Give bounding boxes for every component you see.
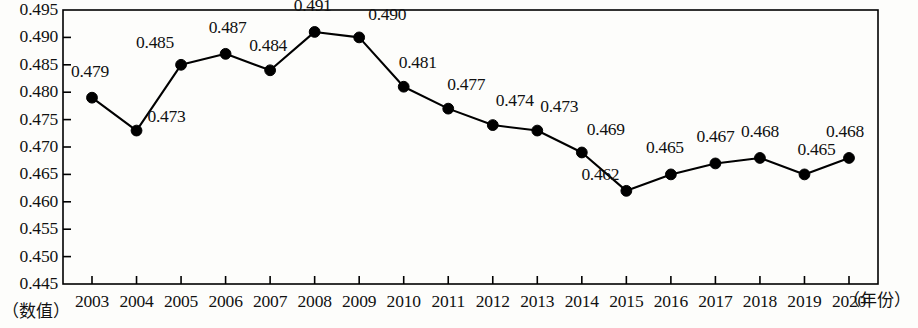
data-point-label: 0.465 <box>646 140 684 158</box>
data-point-label: 0.468 <box>741 123 779 141</box>
data-point-label: 0.491 <box>294 0 332 15</box>
x-axis-tick-label: 2018 <box>743 293 777 311</box>
x-axis-tick-label: 2015 <box>609 293 643 311</box>
data-point-label: 0.462 <box>581 166 619 184</box>
data-point-label: 0.481 <box>399 54 437 72</box>
data-point-label: 0.487 <box>209 19 247 37</box>
x-axis-tick-label: 2007 <box>253 293 287 311</box>
x-axis-tick-label: 2004 <box>119 293 153 311</box>
x-axis-tick-label: 2009 <box>342 293 376 311</box>
x-axis-unit-label: （年份） <box>843 292 911 309</box>
data-point-label: 0.468 <box>826 123 864 141</box>
data-point-label: 0.485 <box>136 34 174 52</box>
data-point-label: 0.477 <box>447 76 485 94</box>
x-axis-tick-label: 2011 <box>431 293 465 311</box>
data-point-label: 0.473 <box>148 108 186 126</box>
x-axis-tick-label: 2006 <box>208 293 242 311</box>
x-axis-tick-label: 2008 <box>298 293 332 311</box>
y-axis-unit-label: （数值） <box>2 303 70 320</box>
data-point-label: 0.469 <box>587 122 625 140</box>
data-point-label: 0.474 <box>496 92 534 110</box>
x-axis-tick-label: 2017 <box>698 293 732 311</box>
x-axis-tick-label: 2010 <box>387 293 421 311</box>
data-point-label: 0.473 <box>540 98 578 116</box>
x-axis-tick-label: 2005 <box>164 293 198 311</box>
x-axis-tick-label: 2014 <box>565 293 599 311</box>
x-axis-tick-label: 2019 <box>787 293 821 311</box>
data-point-label: 0.465 <box>798 142 836 160</box>
data-point-label: 0.467 <box>696 129 734 147</box>
x-axis-tick-label: 2012 <box>476 293 510 311</box>
x-axis-tick-label: 2013 <box>520 293 554 311</box>
x-axis-tick-label: 2003 <box>75 293 109 311</box>
x-axis-tick-label: 2016 <box>654 293 688 311</box>
data-point-label: 0.479 <box>71 63 109 81</box>
chart-root: 0.4950.4900.4850.4800.4750.4700.4650.460… <box>0 0 918 328</box>
data-point-label: 0.484 <box>249 38 287 56</box>
data-point-label: 0.490 <box>368 7 406 25</box>
